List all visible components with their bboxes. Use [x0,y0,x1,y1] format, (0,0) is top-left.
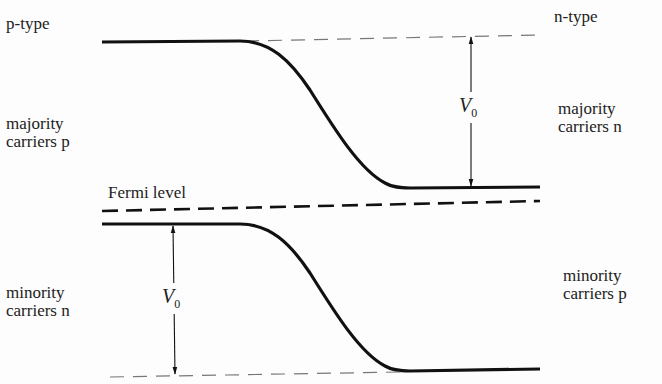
right-minority-line1: minority [563,266,622,285]
left-majority-line2: carriers p [6,132,70,151]
fermi-level-line [102,201,540,211]
right-majority-line2: carriers n [558,117,622,136]
lower-reference-dashed-line [110,372,400,377]
right-majority-line1: majority [558,99,616,118]
left-minority-line2: carriers n [6,301,70,320]
n-type-label: n-type [554,7,597,26]
left-minority-line1: minority [6,283,65,302]
upper-reference-dashed-line [245,35,540,41]
fermi-level-label: Fermi level [108,183,186,202]
band-diagram-canvas [0,0,662,384]
left-majority-line1: majority [6,114,64,133]
lower-barrier-label: V0 [162,283,180,314]
pn-junction-diagram: p-type n-type majority carriers p majori… [0,0,662,384]
upper-barrier-label: V0 [459,92,477,123]
right-minority-line2: carriers p [563,284,627,303]
p-type-label: p-type [6,14,49,33]
